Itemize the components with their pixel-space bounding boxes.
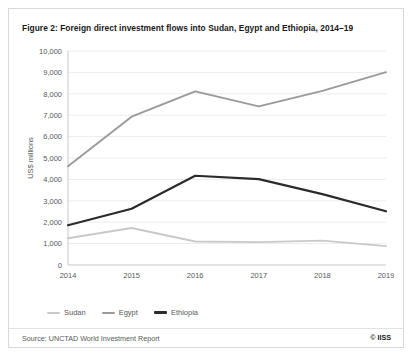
figure-title: Figure 2: Foreign direct investment flow…	[22, 23, 394, 34]
x-axis: 201420152016201720182019	[60, 271, 394, 280]
legend-entry-egypt[interactable]: Egypt	[102, 308, 138, 317]
data-series	[68, 72, 386, 246]
y-axis-tick-label: 4,000	[43, 175, 62, 184]
y-axis-tick-label: 1,000	[43, 239, 62, 248]
figure-card: Figure 2: Foreign direct investment flow…	[8, 8, 404, 348]
x-axis-tick-label: 2016	[187, 271, 204, 280]
gridlines	[68, 51, 386, 265]
legend-swatch-icon	[154, 311, 167, 314]
y-axis-tick-label: 0	[58, 261, 62, 270]
y-axis: 01,0002,0003,0004,0005,0006,0007,0008,00…	[39, 47, 68, 270]
chart-legend: SudanEgyptEthiopia	[47, 308, 198, 317]
y-axis-tick-label: 10,000	[39, 47, 62, 56]
x-axis-tick-label: 2014	[60, 271, 77, 280]
line-chart: 01,0002,0003,0004,0005,0006,0007,0008,00…	[22, 45, 394, 293]
y-axis-tick-label: 5,000	[43, 154, 62, 163]
legend-entry-sudan[interactable]: Sudan	[47, 308, 86, 317]
x-axis-tick-label: 2018	[314, 271, 331, 280]
series-line-egypt	[68, 72, 386, 166]
x-axis-tick-label: 2017	[250, 271, 267, 280]
legend-entry-ethiopia[interactable]: Ethiopia	[154, 308, 198, 317]
chart-plot-area: 01,0002,0003,0004,0005,0006,0007,0008,00…	[22, 45, 394, 293]
y-axis-tick-label: 8,000	[43, 90, 62, 99]
y-axis-tick-label: 6,000	[43, 132, 62, 141]
y-axis-tick-label: 3,000	[43, 197, 62, 206]
y-axis-title: US$ millions	[26, 137, 35, 179]
legend-label: Egypt	[119, 308, 138, 317]
legend-swatch-icon	[102, 312, 115, 314]
y-axis-tick-label: 2,000	[43, 218, 62, 227]
credit-label: © IISS	[370, 333, 391, 342]
x-axis-tick-label: 2019	[378, 271, 394, 280]
legend-label: Ethiopia	[171, 308, 198, 317]
legend-swatch-icon	[47, 312, 60, 314]
x-axis-tick-label: 2015	[123, 271, 140, 280]
source-note: Source: UNCTAD World Investment Report	[22, 334, 160, 343]
footer-divider	[9, 328, 403, 329]
y-axis-tick-label: 9,000	[43, 68, 62, 77]
y-axis-tick-label: 7,000	[43, 111, 62, 120]
legend-label: Sudan	[64, 308, 86, 317]
